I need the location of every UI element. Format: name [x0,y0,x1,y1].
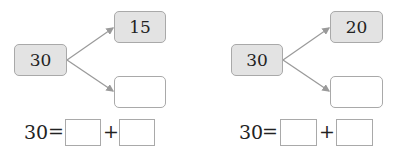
addend-1-input[interactable] [65,119,101,146]
problem-1: 30 15 30 = + [0,0,198,158]
part-bottom-input[interactable] [330,76,383,108]
addend-2-input[interactable] [119,119,155,146]
equals-sign: = [48,120,64,142]
problem-2: 30 20 30 = + [198,0,396,158]
part-top-box: 15 [114,11,166,43]
equation-lhs: 30 [24,121,48,143]
part-bottom-input[interactable] [114,76,166,108]
addend-1-input[interactable] [280,119,317,146]
addend-2-input[interactable] [336,119,373,146]
whole-box: 30 [14,44,67,76]
equation-lhs: 30 [239,121,263,143]
plus-sign: + [103,120,119,142]
equals-sign: = [262,120,278,142]
whole-box: 30 [231,44,283,76]
part-top-box: 20 [330,11,383,43]
plus-sign: + [319,120,335,142]
